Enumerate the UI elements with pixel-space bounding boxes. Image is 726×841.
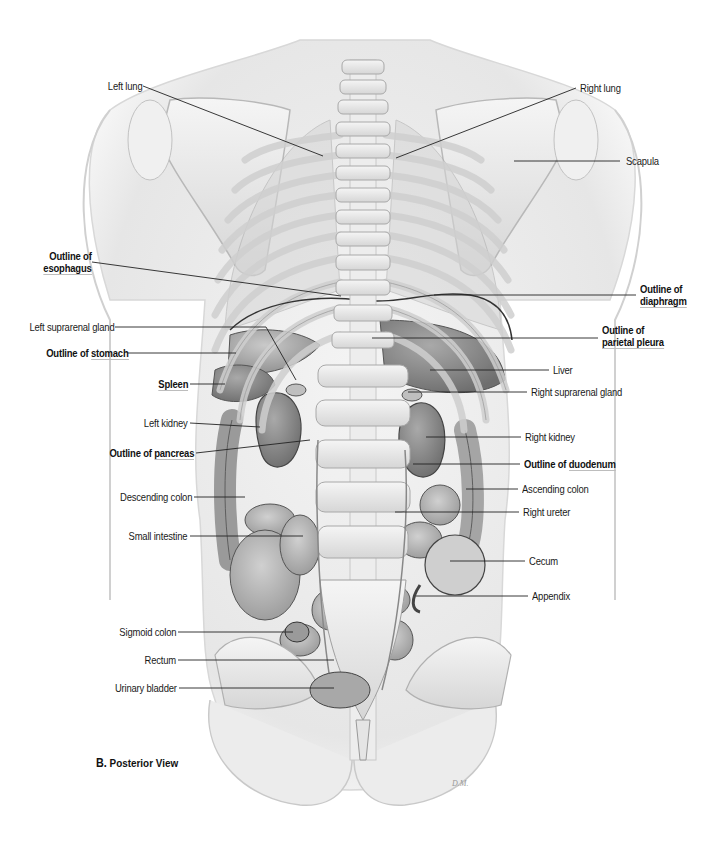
- label-cecum: Cecum: [529, 555, 558, 567]
- label-right-ureter: Right ureter: [523, 506, 570, 518]
- label-rectum: Rectum: [145, 654, 176, 666]
- caption-letter: B.: [96, 756, 107, 770]
- label-small-intestine: Small intestine: [128, 530, 187, 542]
- label-right-kidney: Right kidney: [525, 431, 575, 443]
- label-outline-duodenum: Outline of duodenum: [524, 458, 616, 470]
- label-sigmoid-colon: Sigmoid colon: [119, 626, 176, 638]
- label-outline-esophagus: Outline of esophagus: [44, 250, 92, 274]
- label-urinary-bladder: Urinary bladder: [115, 682, 177, 694]
- label-outline-stomach-term: stomach: [90, 347, 128, 360]
- label-spleen: Spleen: [158, 378, 188, 390]
- label-outline-pancreas-term: pancreas: [154, 447, 194, 460]
- label-right-lung: Right lung: [580, 82, 621, 94]
- label-scapula: Scapula: [626, 155, 659, 167]
- label-ascending-colon: Ascending colon: [522, 483, 589, 495]
- label-left-kidney: Left kidney: [144, 417, 188, 429]
- label-liver: Liver: [553, 364, 573, 376]
- label-outline-parietal-pleura-line1: Outline of: [602, 324, 664, 336]
- label-outline-diaphragm: Outline of diaphragm: [640, 283, 687, 307]
- label-outline-stomach: Outline of stomach: [46, 347, 128, 359]
- label-outline-duodenum-prefix: Outline of: [524, 458, 569, 470]
- label-outline-duodenum-term: duodenum: [569, 458, 616, 471]
- label-right-suprarenal-gland: Right suprarenal gland: [531, 386, 622, 398]
- label-outline-pancreas-prefix: Outline of: [109, 447, 154, 459]
- label-outline-parietal-pleura: Outline of parietal pleura: [602, 324, 664, 348]
- label-appendix: Appendix: [532, 590, 570, 602]
- label-outline-parietal-pleura-line2: parietal pleura: [602, 336, 664, 349]
- label-outline-pancreas: Outline of pancreas: [109, 447, 194, 459]
- caption-text: Posterior View: [110, 757, 179, 769]
- label-outline-esophagus-line2: esophagus: [44, 262, 92, 275]
- label-outline-stomach-prefix: Outline of: [46, 347, 91, 359]
- label-outline-diaphragm-line1: Outline of: [640, 283, 687, 295]
- label-outline-diaphragm-line2: diaphragm: [640, 295, 687, 308]
- label-descending-colon: Descending colon: [120, 491, 192, 503]
- artist-signature: D.M.: [451, 779, 468, 788]
- posterior-torso-illustration: D.M.: [0, 0, 726, 841]
- figure-caption: B. Posterior View: [96, 756, 178, 770]
- label-left-suprarenal-gland: Left suprarenal gland: [29, 321, 114, 333]
- label-spleen-term: Spleen: [158, 378, 188, 391]
- label-left-lung: Left lung: [107, 80, 142, 92]
- label-outline-esophagus-line1: Outline of: [44, 250, 92, 262]
- urinary-bladder-shape: [310, 672, 370, 708]
